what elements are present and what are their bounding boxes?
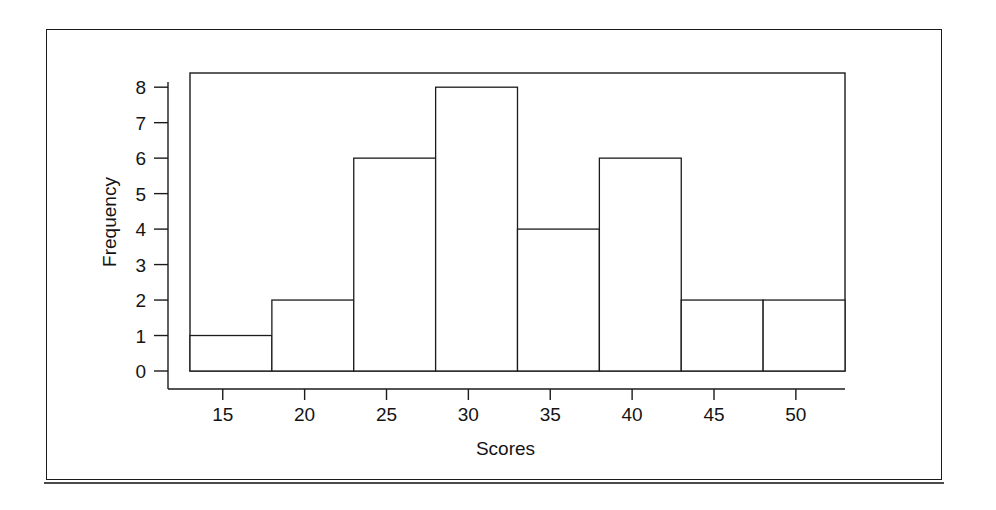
x-tick-label-45: 45: [703, 404, 724, 425]
y-tick-label-6: 6: [135, 148, 146, 169]
y-axis-title: Frequency: [99, 177, 120, 267]
x-axis-title: Scores: [476, 438, 535, 459]
histogram-chart: 1520253035404550012345678ScoresFrequency: [0, 0, 996, 510]
y-tick-label-1: 1: [135, 326, 146, 347]
histogram-bar-23-28: [354, 158, 436, 371]
y-tick-label-3: 3: [135, 255, 146, 276]
x-tick-label-25: 25: [376, 404, 397, 425]
histogram-bar-48-53: [763, 300, 845, 371]
x-tick-label-40: 40: [622, 404, 643, 425]
histogram-bar-18-23: [272, 300, 354, 371]
y-tick-label-0: 0: [135, 361, 146, 382]
y-tick-label-2: 2: [135, 290, 146, 311]
histogram-bar-33-38: [518, 229, 600, 371]
x-tick-label-50: 50: [785, 404, 806, 425]
x-tick-label-15: 15: [212, 404, 233, 425]
y-tick-label-4: 4: [135, 219, 146, 240]
histogram-bar-13-18: [190, 336, 272, 371]
x-tick-label-20: 20: [294, 404, 315, 425]
histogram-bar-43-48: [681, 300, 763, 371]
histogram-bar-28-33: [436, 87, 518, 371]
y-tick-label-5: 5: [135, 184, 146, 205]
histogram-bar-38-43: [599, 158, 681, 371]
y-tick-label-8: 8: [135, 77, 146, 98]
x-tick-label-30: 30: [458, 404, 479, 425]
x-tick-label-35: 35: [540, 404, 561, 425]
y-tick-label-7: 7: [135, 113, 146, 134]
